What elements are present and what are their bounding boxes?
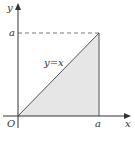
y-axis-label: y [6,2,13,13]
x-axis-label: x [125,118,131,129]
diagram: y a y=x O a x [0,0,135,142]
x-tick-label: a [95,118,101,129]
y-tick-label: a [9,27,15,38]
diagram-canvas: y a y=x O a x [0,0,135,142]
origin-label: O [7,118,15,129]
y-axis-arrow-icon [15,3,21,10]
line-label: y=x [43,57,64,68]
